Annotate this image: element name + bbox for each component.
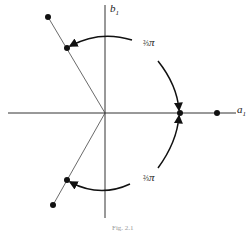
- angle-label-lower: ⅔π: [143, 171, 155, 183]
- diagram-canvas: [0, 0, 251, 233]
- point-lower-outer: [50, 202, 56, 208]
- point-upper-inner: [64, 45, 70, 51]
- figure-caption: Fig. 2.1: [112, 224, 134, 232]
- arc-upper: [70, 36, 132, 46]
- point-lower-inner: [64, 177, 70, 183]
- ray-upper: [48, 17, 105, 113]
- ray-lower: [53, 113, 105, 205]
- arc-lower: [70, 182, 130, 191]
- y-axis-label: b1: [110, 2, 119, 17]
- angle-label-upper: ⅔π: [143, 36, 155, 48]
- arc-right-upper: [158, 61, 179, 110]
- point-axis-outer: [214, 110, 220, 116]
- x-axis-label: a1: [237, 103, 246, 118]
- rotation-diagram: b1 a1 ⅔π ⅔π Fig. 2.1: [0, 0, 251, 233]
- arc-right-lower: [158, 116, 179, 168]
- point-upper-outer: [45, 14, 51, 20]
- point-axis-inner: [177, 110, 183, 116]
